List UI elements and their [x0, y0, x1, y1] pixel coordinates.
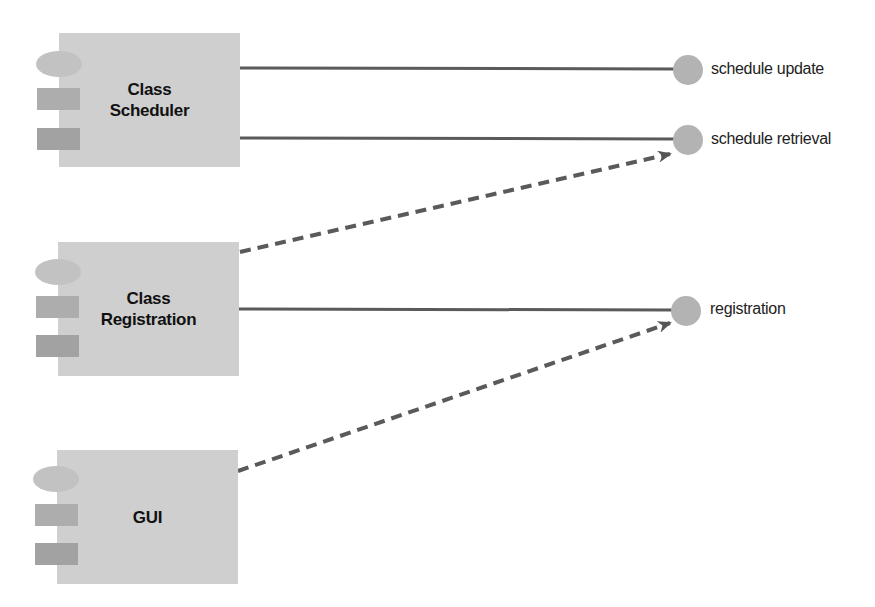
component-class-scheduler[interactable]: Class Scheduler: [59, 33, 240, 167]
label-line-1: Class: [59, 79, 240, 100]
component-tab-icon: [37, 88, 80, 110]
label-line-2: Scheduler: [59, 100, 240, 121]
component-tab-icon: [36, 296, 79, 318]
component-label: GUI: [57, 507, 238, 528]
component-ellipse-icon: [36, 51, 82, 77]
label-line-1: GUI: [57, 507, 238, 528]
line-registration-to-registration-iface: [239, 309, 672, 310]
label-line-2: Registration: [58, 309, 239, 330]
line-scheduler-to-schedule-retrieval: [240, 138, 674, 139]
interface-schedule-update-icon: [673, 55, 703, 85]
dependency-gui-to-registration: [238, 323, 670, 471]
component-gui[interactable]: GUI: [57, 450, 238, 584]
interface-label-schedule-update: schedule update: [711, 60, 824, 78]
component-ellipse-icon: [33, 466, 79, 492]
interface-label-schedule-retrieval: schedule retrieval: [711, 130, 831, 148]
interface-label-registration: registration: [710, 300, 786, 318]
component-tab-icon: [35, 543, 78, 565]
component-label: Class Registration: [58, 288, 239, 330]
component-tab-icon: [37, 128, 80, 150]
component-tab-icon: [35, 504, 78, 526]
interface-registration-icon: [671, 296, 701, 326]
component-class-registration[interactable]: Class Registration: [58, 242, 239, 376]
label-line-1: Class: [58, 288, 239, 309]
component-tab-icon: [36, 335, 79, 357]
line-scheduler-to-schedule-update: [240, 68, 674, 69]
dependency-registration-to-schedule-retrieval: [240, 154, 670, 252]
component-ellipse-icon: [35, 259, 81, 285]
interface-schedule-retrieval-icon: [673, 125, 703, 155]
component-label: Class Scheduler: [59, 79, 240, 121]
